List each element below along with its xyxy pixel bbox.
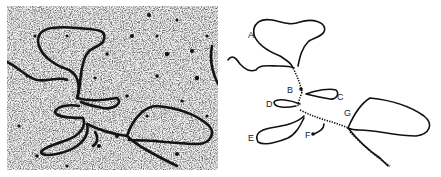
loop-g bbox=[348, 98, 430, 136]
tracing-image: A B C D E F G bbox=[220, 0, 441, 177]
loop-e bbox=[257, 116, 304, 144]
label-f: F bbox=[305, 130, 311, 140]
label-a: A bbox=[248, 30, 254, 40]
label-e: E bbox=[248, 133, 254, 143]
tail-right bbox=[348, 128, 388, 166]
label-g: G bbox=[344, 108, 351, 118]
loop-c bbox=[306, 89, 338, 99]
loop-a bbox=[254, 20, 325, 66]
branch-f bbox=[314, 124, 324, 134]
label-b: B bbox=[287, 85, 293, 95]
label-d: D bbox=[266, 99, 273, 109]
loop-d bbox=[274, 100, 300, 107]
tracing-diagram: A B C D E F G bbox=[220, 0, 441, 177]
electron-micrograph bbox=[7, 6, 218, 170]
micrograph-image bbox=[7, 6, 218, 170]
label-c: C bbox=[337, 92, 344, 102]
